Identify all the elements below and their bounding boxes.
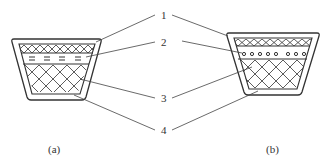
belt-b-tension-cords (242, 52, 305, 55)
belt-a-top-rubber (16, 45, 96, 53)
belt-b-top-rubber (230, 39, 318, 46)
callout-3: 3 (161, 93, 167, 104)
belt-a (10, 39, 110, 100)
caption-a: (a) (48, 144, 60, 155)
callout-1: 1 (161, 10, 167, 21)
leader-lines (74, 15, 258, 130)
belt-a-tension-cords (29, 57, 81, 60)
belt-diagram (0, 0, 328, 166)
callout-2: 2 (161, 37, 167, 48)
belt-b (226, 33, 326, 95)
callout-4: 4 (161, 125, 167, 136)
caption-b: (b) (266, 144, 279, 155)
